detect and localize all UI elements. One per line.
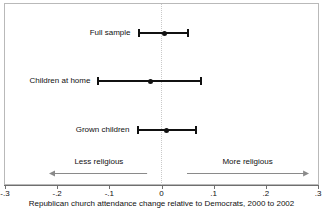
ci-cap-left [137, 126, 139, 134]
tick-label: 0 [152, 189, 172, 199]
estimate-marker [164, 128, 169, 133]
tick-label: -.1 [99, 189, 119, 199]
ci-cap-right [195, 126, 197, 134]
tick-label: .2 [256, 189, 276, 199]
ci-cap-right [200, 77, 202, 85]
ci-cap-right [187, 29, 189, 37]
tick-label: -.2 [47, 189, 67, 199]
x-axis-caption: Republican church attendance change rela… [0, 199, 323, 209]
row-label: Full sample [90, 28, 131, 38]
tick-label: -.3 [0, 189, 15, 199]
row-label: Grown children [76, 125, 130, 135]
estimate-marker [148, 79, 153, 84]
direction-label: More religious [186, 157, 309, 167]
chart-figure: Full sampleChildren at homeGrown childre… [0, 0, 323, 210]
row-label: Children at home [29, 76, 90, 86]
direction-arrow-left [49, 170, 148, 177]
estimate-marker [162, 31, 167, 36]
direction-label: Less religious [49, 157, 148, 167]
ci-cap-left [97, 77, 99, 85]
tick-label: .1 [204, 189, 224, 199]
ci-cap-left [138, 29, 140, 37]
tick-label: .3 [308, 189, 323, 199]
direction-arrow-right [186, 170, 309, 177]
